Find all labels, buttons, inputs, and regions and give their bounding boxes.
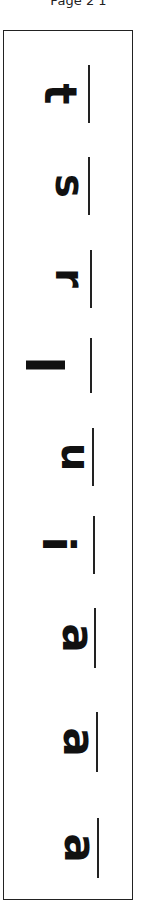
letter-a: a: [56, 623, 100, 653]
letter-a: a: [57, 727, 101, 757]
page-label: Page 2 1: [0, 0, 157, 8]
letter-i: i: [36, 536, 80, 551]
letter-r: r: [50, 268, 90, 288]
baseline-line: [88, 65, 90, 123]
letter-a: a: [58, 833, 102, 863]
letter-l: l: [18, 356, 70, 374]
baseline-line: [93, 516, 95, 574]
letter-t: t: [38, 83, 82, 104]
baseline-line: [90, 338, 92, 393]
letter-u: u: [56, 443, 96, 471]
letter-s: s: [50, 174, 90, 198]
